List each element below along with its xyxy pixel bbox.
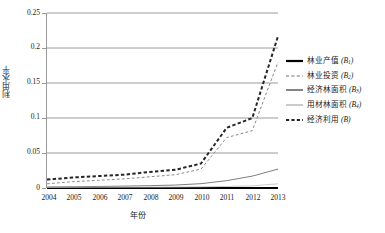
plot-svg [47, 13, 278, 188]
x-tick-label-2012: 2012 [240, 194, 266, 202]
legend: 林业产值 (B1) 林业投资 (B2) 经济林面积 (B3) 用 [286, 54, 385, 127]
y-tick-mark [42, 188, 46, 189]
legend-item-forestry-investment[interactable]: 林业投资 (B2) [286, 69, 385, 84]
legend-item-economic-utilization[interactable]: 经济利用 (B) [286, 112, 385, 127]
legend-series-name: 林业产值 [307, 56, 339, 65]
y-tick-label-0.2: 0.2 [10, 43, 40, 51]
legend-swatch-dashed-icon [286, 71, 303, 81]
y-tick-label-0.1: 0.1 [10, 113, 40, 121]
legend-swatch-line-icon [286, 56, 303, 66]
x-axis-title-wrap: 年份 [0, 209, 385, 220]
legend-series-name: 经济林面积 [307, 85, 347, 94]
x-tick-label-2010: 2010 [189, 194, 215, 202]
legend-series-name: 用材林面积 [307, 100, 347, 109]
x-tick-label-2004: 2004 [36, 194, 62, 202]
line-chart: 利用水平 0.25 0.2 0.15 0.1 0.05 0 2004 2005 … [0, 0, 385, 233]
x-axis-title: 年份 [130, 209, 256, 220]
x-tick-label-2011: 2011 [214, 194, 240, 202]
x-tick-label-2006: 2006 [87, 194, 113, 202]
legend-label: 林业投资 (B2) [307, 72, 353, 80]
series-layer [47, 36, 278, 188]
legend-label: 经济利用 (B) [307, 116, 351, 124]
y-tick-label-0.25: 0.25 [10, 9, 40, 17]
legend-series-name: 经济利用 [307, 115, 339, 124]
legend-item-forestry-output[interactable]: 林业产值 (B1) [286, 54, 385, 69]
series-line-5 [47, 36, 278, 180]
y-tick-label-0.15: 0.15 [10, 78, 40, 86]
legend-label: 用材林面积 (B4) [307, 101, 361, 109]
plot-area [46, 13, 277, 188]
legend-swatch-line-icon [286, 85, 303, 95]
x-tick-label-2007: 2007 [112, 194, 138, 202]
series-line-2 [47, 62, 278, 184]
legend-item-economic-forest-area[interactable]: 经济林面积 (B3) [286, 83, 385, 98]
x-tick-label-2005: 2005 [61, 194, 87, 202]
legend-label: 经济林面积 (B3) [307, 86, 361, 94]
y-tick-label-0: 0 [10, 184, 40, 192]
x-tick-label-2009: 2009 [163, 194, 189, 202]
gridlines [47, 13, 278, 188]
y-tick-label-0.05: 0.05 [10, 148, 40, 156]
legend-swatch-dashed-icon [286, 115, 303, 125]
legend-series-name: 林业投资 [307, 71, 339, 80]
legend-item-timber-forest-area[interactable]: 用材林面积 (B4) [286, 98, 385, 113]
legend-label: 林业产值 (B1) [307, 57, 353, 65]
legend-swatch-line-icon [286, 100, 303, 110]
x-tick-label-2013: 2013 [265, 194, 291, 202]
x-tick-label-2008: 2008 [138, 194, 164, 202]
